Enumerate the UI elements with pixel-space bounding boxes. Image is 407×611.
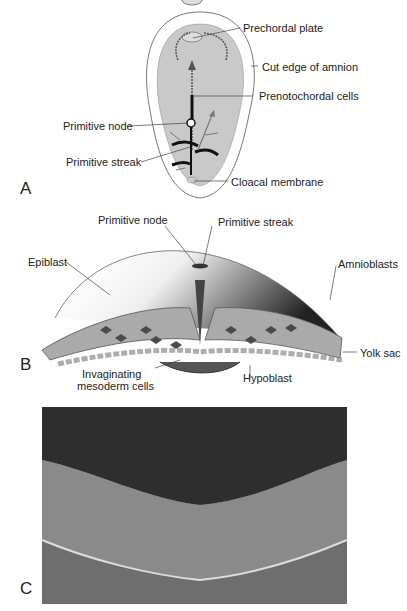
label-primitive-node-b: Primitive node xyxy=(98,214,168,226)
panel-c-sem-micrograph xyxy=(42,407,347,604)
label-primitive-streak-a: Primitive streak xyxy=(66,156,141,168)
label-amnioblasts: Amnioblasts xyxy=(338,258,398,270)
label-invaginating: Invaginating xyxy=(82,368,141,380)
panel-letter-c: C xyxy=(20,580,32,598)
panel-b-cross-section xyxy=(42,251,342,373)
label-primitive-streak-b: Primitive streak xyxy=(218,216,293,228)
label-cut-edge-amnion: Cut edge of amnion xyxy=(262,61,358,73)
panel-a-embryo-disc xyxy=(147,0,255,198)
label-primitive-node-a: Primitive node xyxy=(63,120,133,132)
label-hypoblast: Hypoblast xyxy=(243,372,292,384)
label-yolk-sac: Yolk sac xyxy=(360,347,401,359)
label-epiblast: Epiblast xyxy=(28,256,67,268)
label-prechordal-plate: Prechordal plate xyxy=(243,22,323,34)
label-cloacal-membrane: Cloacal membrane xyxy=(231,176,323,188)
panel-letter-a: A xyxy=(20,180,31,198)
label-prenotochordal-cells: Prenotochordal cells xyxy=(259,90,359,102)
label-mesoderm-cells: mesoderm cells xyxy=(77,380,154,392)
panel-letter-b: B xyxy=(20,356,31,374)
